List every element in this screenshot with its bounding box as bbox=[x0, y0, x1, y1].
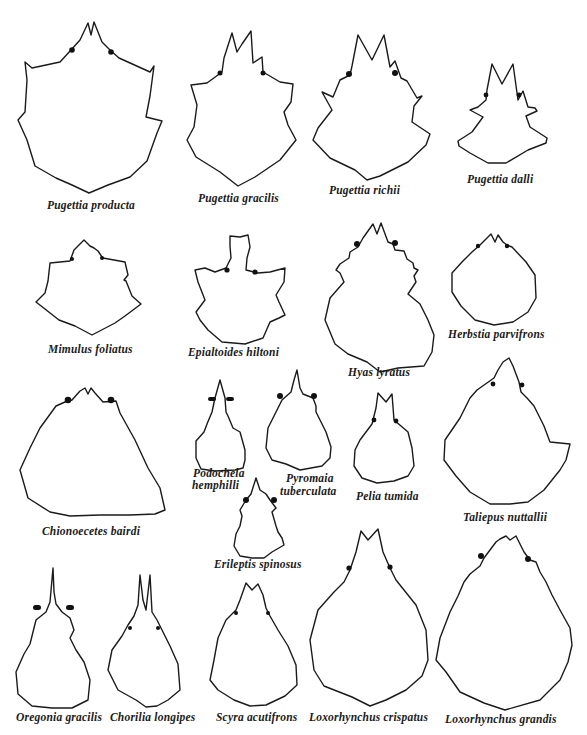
label-mimulus-foliatus: Mimulus foliatus bbox=[48, 343, 133, 356]
crab-carapace-plate: Pugettia producta Pugettia gracilis Puge… bbox=[0, 0, 587, 735]
label-pugettia-dalli: Pugettia dalli bbox=[467, 173, 533, 186]
label-oregonia-gracilis: Oregonia gracilis bbox=[16, 711, 102, 724]
pelia-tumida-outline bbox=[354, 393, 414, 483]
pugettia-dalli-outline bbox=[458, 64, 547, 163]
label-loxorhynchus-crispatus: Loxorhynchus crispatus bbox=[309, 711, 428, 724]
mimulus-foliatus-outline bbox=[36, 240, 141, 335]
label-chorilia-longipes: Chorilia longipes bbox=[110, 711, 196, 724]
label-scyra-acutifrons: Scyra acutifrons bbox=[216, 711, 297, 724]
oregonia-gracilis-outline bbox=[16, 568, 90, 708]
label-pelia-tumida: Pelia tumida bbox=[356, 490, 419, 503]
label-pyromaia-tuberculata-line2: tuberculata bbox=[280, 485, 337, 498]
loxorhynchus-crispatus-outline bbox=[310, 529, 428, 706]
label-herbstia-parvifrons: Herbstia parvifrons bbox=[448, 328, 545, 341]
pyromaia-tuberculata-outline bbox=[266, 370, 331, 470]
hyas-lyratus-outline bbox=[325, 223, 434, 372]
taliepus-nuttallii-outline bbox=[444, 358, 570, 504]
label-podochela-hemphilli-line2: hemphilli bbox=[192, 479, 239, 492]
chorilia-longipes-outline bbox=[108, 575, 180, 707]
herbstia-parvifrons-outline bbox=[452, 234, 536, 325]
podochela-hemphilli-outline bbox=[196, 380, 245, 471]
pugettia-producta-outline bbox=[18, 22, 162, 193]
label-taliepus-nuttallii: Taliepus nuttallii bbox=[463, 511, 547, 524]
label-pugettia-producta: Pugettia producta bbox=[47, 199, 135, 212]
label-erileptis-spinosus: Erileptis spinosus bbox=[214, 558, 302, 571]
label-chionoecetes-bairdi: Chionoecetes bairdi bbox=[42, 525, 140, 538]
loxorhynchus-grandis-outline bbox=[436, 536, 572, 710]
scyra-acutifrons-outline bbox=[210, 583, 297, 706]
label-pugettia-gracilis: Pugettia gracilis bbox=[198, 192, 279, 205]
label-epialtoides-hiltoni: Epialtoides hiltoni bbox=[188, 346, 279, 359]
chionoecetes-bairdi-outline bbox=[20, 388, 165, 516]
label-pyromaia-tuberculata-line1: Pyromaia bbox=[286, 472, 334, 485]
label-hyas-lyratus: Hyas lyratus bbox=[348, 366, 410, 379]
pugettia-gracilis-outline bbox=[187, 31, 296, 186]
erileptis-spinosus-outline bbox=[234, 478, 284, 558]
label-loxorhynchus-grandis: Loxorhynchus grandis bbox=[445, 713, 557, 726]
epialtoides-hiltoni-outline bbox=[195, 235, 285, 344]
carapace-outlines bbox=[0, 0, 587, 735]
label-pugettia-richii: Pugettia richii bbox=[329, 184, 400, 197]
pugettia-richii-outline bbox=[313, 35, 430, 180]
